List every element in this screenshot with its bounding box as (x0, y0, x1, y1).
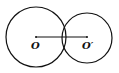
diagram-canvas: O O′ (0, 0, 119, 73)
center-dot-o (35, 36, 37, 38)
label-center-o-prime: O′ (82, 41, 93, 51)
circles-figure (0, 0, 119, 73)
center-dot-o-prime (86, 36, 88, 38)
label-center-o: O (31, 41, 40, 51)
